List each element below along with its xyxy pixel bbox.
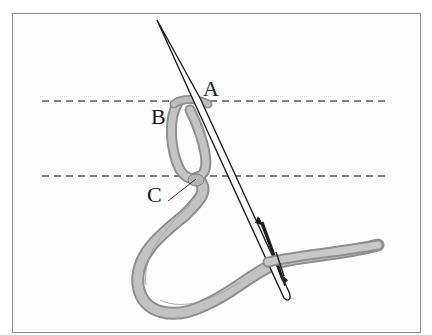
label-b: B bbox=[151, 106, 166, 128]
label-a: A bbox=[203, 78, 219, 100]
c-leader-line bbox=[168, 179, 196, 201]
stitch-diagram bbox=[0, 0, 432, 335]
label-c: C bbox=[147, 184, 162, 206]
thread bbox=[138, 100, 378, 314]
